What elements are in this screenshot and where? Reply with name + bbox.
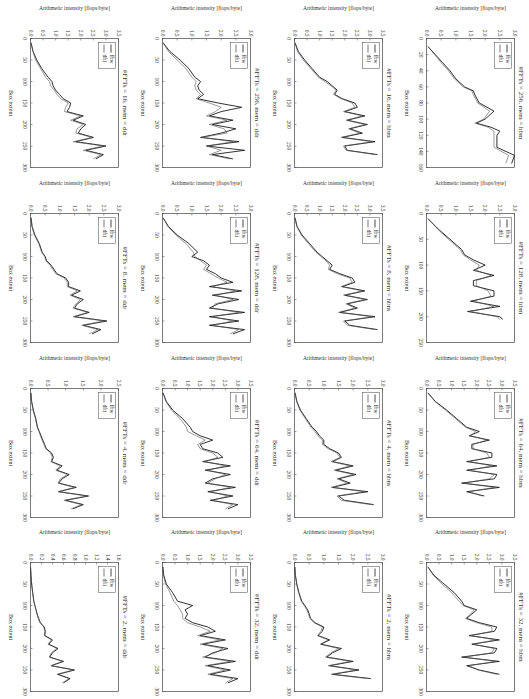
x-tick-label: 0	[285, 387, 291, 390]
legend-label: dfti	[365, 578, 371, 586]
series-line-dfti	[163, 217, 239, 333]
y-tick-label: 2.5	[486, 379, 492, 386]
y-tick-label: 3.0	[379, 379, 385, 386]
y-tick-label: 3.5	[511, 379, 517, 386]
chart-panel: #FFTs = 256, mem = ddr0.00.51.01.52.02.5…	[132, 0, 264, 175]
legend-label: fftw	[240, 578, 246, 587]
x-tick-label: 300	[285, 687, 291, 696]
chart-panel: #FFTs = 256, mem = hbm0.00.51.01.52.02.5…	[396, 0, 528, 175]
y-tick-label: 1.5	[329, 29, 335, 36]
x-tick-label: 250	[285, 141, 291, 150]
series-line-dfti	[427, 392, 494, 495]
chart-title: #FFTs = 16, mem = ddr	[120, 69, 128, 136]
x-tick-label: 250	[417, 338, 423, 347]
x-tick-label: 100	[21, 252, 27, 261]
x-tick-label: 200	[285, 120, 291, 129]
y-tick-label: 2.5	[354, 29, 360, 36]
legend: fftwdfti	[494, 217, 511, 243]
x-tick-label: 0	[153, 37, 159, 40]
chart-title: #FFTs = 8, mem = hbm	[384, 244, 392, 311]
x-tick-label: 200	[285, 295, 291, 304]
chart-panel: #FFTs = 2, mem = ddr0.00.20.40.60.81.01.…	[0, 524, 132, 699]
chart-title: #FFTs = 2, mem = ddr	[120, 595, 128, 659]
chart-title: #FFTs = 2, mem = hbm	[384, 593, 392, 660]
y-tick-label: 2.5	[232, 204, 238, 211]
x-tick-label: 150	[153, 273, 159, 282]
series-line-dfti	[295, 392, 371, 504]
legend-label: fftw	[240, 54, 246, 63]
y-tick-label: 1.5	[80, 379, 86, 386]
x-tick-label: 0	[153, 387, 159, 390]
legend-label: fftw	[372, 54, 378, 63]
series-line-dfti	[163, 42, 233, 158]
series-line-fftw	[294, 566, 370, 678]
y-axis-label: Arithmetic intensity [flops/byte]	[434, 354, 505, 360]
legend: fftwdfti	[494, 566, 511, 592]
x-tick-label: 200	[417, 644, 423, 653]
legend-label: dfti	[233, 54, 239, 62]
y-tick-label: 0.5	[306, 553, 312, 560]
x-axis-label: Box extent	[7, 613, 13, 639]
x-tick-label: 150	[285, 273, 291, 282]
x-tick-label: 100	[417, 427, 423, 436]
chart-title: #FFTs = 128, mem = hbm	[516, 241, 524, 315]
legend-label: fftw	[240, 229, 246, 238]
y-tick-label: 2.0	[218, 204, 224, 211]
x-tick-label: 150	[153, 448, 159, 457]
y-tick-label: 0.0	[159, 379, 165, 386]
y-tick-label: 1.0	[56, 204, 62, 211]
x-tick-label: 150	[21, 448, 27, 457]
y-tick-label: 2.0	[97, 379, 103, 386]
y-axis-label: Arithmetic intensity [flops/byte]	[302, 354, 373, 360]
y-tick-label: 2.5	[496, 29, 502, 36]
legend-label: dfti	[365, 54, 371, 62]
x-tick-label: 200	[153, 644, 159, 653]
x-tick-label: 0	[21, 212, 27, 215]
x-tick-label: 150	[417, 448, 423, 457]
x-axis-label: Box extent	[403, 264, 409, 290]
x-tick-label: 200	[285, 470, 291, 479]
x-tick-label: 160	[417, 163, 423, 172]
y-tick-label: 1.5	[467, 29, 473, 36]
y-tick-label: 1.0	[448, 379, 454, 386]
y-tick-label: 0.8	[71, 553, 77, 560]
y-tick-label: 3.0	[234, 379, 240, 386]
y-tick-label: 0.0	[423, 553, 429, 560]
x-tick-label: 300	[21, 687, 27, 696]
chart-panel: #FFTs = 8, mem = ddr0.00.51.01.52.02.53.…	[0, 175, 132, 350]
series-line-fftw	[295, 392, 374, 504]
x-tick-label: 50	[153, 581, 159, 587]
chart-panel: #FFTs = 16, mem = ddr0.00.51.01.52.02.53…	[0, 0, 132, 175]
y-tick-label: 2.0	[86, 204, 92, 211]
x-axis-label: Box extent	[139, 89, 145, 115]
y-tick-label: 0.0	[423, 379, 429, 386]
x-tick-label: 100	[417, 601, 423, 610]
x-tick-label: 50	[21, 581, 27, 587]
x-tick-label: 0	[417, 561, 423, 564]
x-tick-label: 100	[417, 115, 423, 124]
chart-panel: #FFTs = 2, mem = hbm0.00.51.01.52.02.53.…	[264, 524, 396, 699]
y-axis-label: Arithmetic intensity [flops/byte]	[434, 179, 505, 185]
y-tick-label: 1.0	[82, 553, 88, 560]
legend: fftwdfti	[98, 566, 115, 592]
legend-label: fftw	[372, 578, 378, 587]
x-tick-label: 150	[21, 273, 27, 282]
y-tick-label: 3.0	[247, 204, 253, 211]
y-tick-label: 2.0	[482, 204, 488, 211]
y-tick-label: 1.0	[316, 204, 322, 211]
y-tick-label: 1.5	[335, 553, 341, 560]
x-tick-label: 250	[153, 141, 159, 150]
x-tick-label: 250	[21, 316, 27, 325]
x-axis-label: Box extent	[271, 613, 277, 639]
series-line-dfti	[30, 566, 73, 682]
y-tick-label: 2.5	[364, 379, 370, 386]
x-tick-label: 50	[285, 57, 291, 63]
series-line-fftw	[30, 392, 88, 508]
y-tick-label: 2.5	[496, 204, 502, 211]
x-tick-label: 40	[417, 68, 423, 74]
legend: fftwdfti	[362, 566, 379, 592]
x-axis-label: Box extent	[139, 264, 145, 290]
legend-label: dfti	[233, 229, 239, 237]
legend-label: dfti	[497, 578, 503, 586]
chart-panel: #FFTs = 4, mem = ddr0.00.51.01.52.02.505…	[0, 350, 132, 525]
